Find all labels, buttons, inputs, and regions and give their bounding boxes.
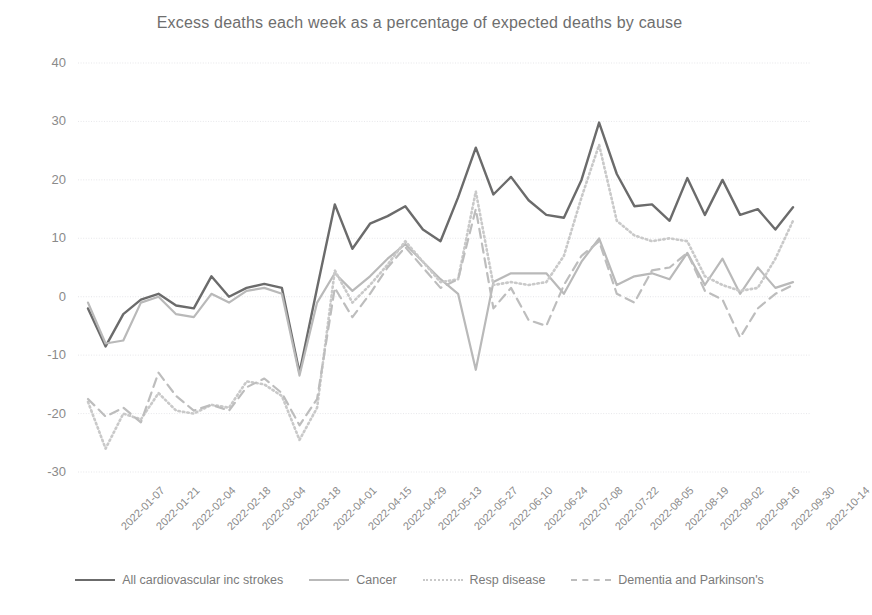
legend-item-1[interactable]: Cancer [309, 573, 396, 587]
y-axis-tick-0: 0 [26, 290, 66, 303]
chart-legend: All cardiovascular inc strokesCancerResp… [0, 573, 839, 587]
legend-item-3[interactable]: Dementia and Parkinson's [571, 573, 764, 587]
legend-swatch-icon-0 [75, 579, 115, 581]
legend-swatch-icon-3 [571, 579, 611, 581]
legend-label-0: All cardiovascular inc strokes [122, 573, 283, 587]
legend-label-1: Cancer [356, 573, 396, 587]
chart-title: Excess deaths each week as a percentage … [0, 14, 839, 32]
legend-swatch-icon-2 [423, 579, 463, 581]
legend-item-2[interactable]: Resp disease [423, 573, 546, 587]
series-line-0 [88, 123, 793, 373]
y-axis-tick-30: 30 [26, 114, 66, 127]
y-axis-tick-10: 10 [26, 231, 66, 244]
legend-swatch-icon-1 [309, 579, 349, 581]
y-axis-tick-20: 20 [26, 173, 66, 186]
y-axis-tick-40: 40 [26, 56, 66, 69]
y-axis-tick-neg20: -20 [26, 407, 66, 420]
y-axis-tick-neg10: -10 [26, 348, 66, 361]
legend-item-0[interactable]: All cardiovascular inc strokes [75, 573, 283, 587]
y-axis-tick-neg30: -30 [26, 465, 66, 478]
legend-label-2: Resp disease [470, 573, 546, 587]
legend-label-3: Dementia and Parkinson's [618, 573, 764, 587]
